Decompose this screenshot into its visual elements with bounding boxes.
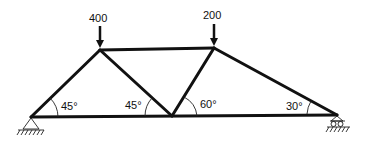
angle-arc-left-45 [50,98,58,117]
load-arrow-400 [96,26,104,48]
roller-support-icon [326,116,350,132]
angle-arc-right-30 [307,101,311,114]
load-arrow-200 [210,24,218,46]
top-chord [100,48,214,50]
angle-label-mid-45: 45° [125,99,142,111]
angle-label-right-30: 30° [286,100,303,112]
pin-support-icon [17,118,44,135]
load-label-400: 400 [89,12,107,24]
right-diagonal [214,48,337,115]
angle-label-mid-60: 60° [200,98,217,110]
angle-arc-mid-45 [145,98,152,116]
load-label-200: 200 [203,9,221,21]
truss-diagram: 400 200 45° 45° 60° 30° [0,0,369,143]
angle-arc-mid-60 [184,97,197,116]
bottom-chord [31,115,337,117]
angle-label-left-45: 45° [61,100,78,112]
